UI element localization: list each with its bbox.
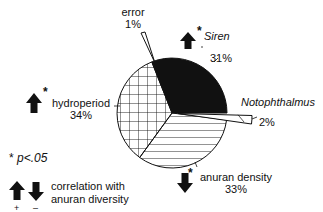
legend-up-arrow-icon bbox=[9, 181, 25, 200]
significance-star-hydroperiod: * bbox=[43, 87, 48, 97]
significance-star-anuran-density: * bbox=[188, 168, 193, 178]
legend-line-1: correlation with bbox=[51, 180, 129, 193]
legend-line-2: anuran diversity bbox=[51, 193, 129, 206]
legend-correlation-text: correlation with anuran diversity bbox=[51, 180, 129, 206]
label-error: error 1% bbox=[116, 6, 150, 30]
legend-significance: * p<.05 bbox=[9, 152, 47, 164]
label-anuran-density-name: anuran density bbox=[194, 171, 278, 183]
label-siren-name: Siren bbox=[204, 30, 230, 42]
label-anuran-density: anuran density 33% bbox=[194, 171, 278, 195]
label-notophthalmus-name: Notophthalmus bbox=[241, 96, 315, 108]
significance-star-siren: * bbox=[197, 26, 202, 36]
label-hydroperiod-pct: 34% bbox=[48, 109, 114, 121]
legend-down-arrow-icon bbox=[28, 182, 44, 201]
legend-star: * bbox=[9, 151, 14, 165]
legend-plus-sign: + bbox=[14, 202, 19, 212]
slice-error bbox=[141, 32, 155, 63]
legend-p-text: <.05 bbox=[24, 151, 48, 165]
label-anuran-density-pct: 33% bbox=[194, 183, 278, 195]
legend-minus-sign: – bbox=[33, 202, 38, 212]
label-error-name: error bbox=[116, 6, 150, 18]
label-notophthalmus-pct: 2% bbox=[259, 116, 275, 128]
label-hydroperiod-name: hydroperiod bbox=[48, 97, 114, 109]
legend-p-symbol: p bbox=[17, 151, 24, 165]
label-error-pct: 1% bbox=[116, 18, 150, 30]
label-hydroperiod: hydroperiod 34% bbox=[48, 97, 114, 121]
up-arrow-icon-hydroperiod bbox=[26, 93, 42, 113]
label-siren-pct: 31% bbox=[210, 52, 232, 64]
up-arrow-icon-siren bbox=[180, 32, 196, 49]
